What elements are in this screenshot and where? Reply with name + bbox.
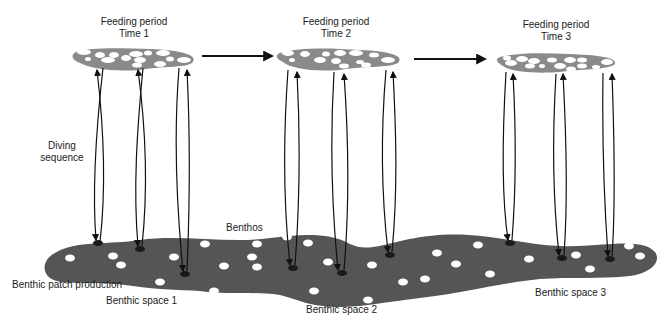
feeding-period-time: Time 3 xyxy=(523,31,590,43)
feeding-period-time-2-label: Feeding period Time 2 xyxy=(303,16,370,40)
diving-arrows-time-3 xyxy=(503,72,614,256)
feeding-period-time-1-label: Feeding period Time 1 xyxy=(101,16,168,40)
benthic-patch-production-label: Benthic patch production xyxy=(12,279,122,291)
surface-patch-time-1 xyxy=(73,48,194,70)
feeding-period-time-3-label: Feeding period Time 3 xyxy=(523,19,590,43)
feeding-period-time: Time 2 xyxy=(303,28,370,40)
surface-patch-time-2 xyxy=(277,48,400,70)
benthos-label: Benthos xyxy=(226,222,263,234)
benthic-space-3-label: Benthic space 3 xyxy=(535,287,606,299)
feeding-period-title: Feeding period xyxy=(303,16,370,28)
diving-sequence-line-1: Diving xyxy=(40,140,83,152)
feeding-period-time: Time 1 xyxy=(101,28,168,40)
diving-sequence-label: Diving sequence xyxy=(40,140,83,164)
surface-patch-time-3 xyxy=(497,53,615,72)
benthic-space-1-label: Benthic space 1 xyxy=(106,295,177,307)
diving-sequence-line-2: sequence xyxy=(40,152,83,164)
feeding-period-title: Feeding period xyxy=(523,19,590,31)
feeding-period-title: Feeding period xyxy=(101,16,168,28)
benthic-space-2-label: Benthic space 2 xyxy=(306,304,377,316)
